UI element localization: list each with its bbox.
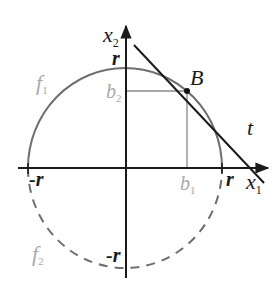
tick-label-r-bottom: -r xyxy=(106,244,121,266)
point-label-b: B xyxy=(190,65,203,90)
circle-tangent-diagram: x2 x1 r r -r -r b2 b1 f1 f2 B t xyxy=(0,0,276,286)
tick-label-b1: b1 xyxy=(180,172,196,196)
tangent-label-t: t xyxy=(247,115,254,140)
curve-label-f2: f2 xyxy=(32,241,44,267)
tick-label-r-left: -r xyxy=(29,168,44,190)
x1-axis-label: x1 xyxy=(245,169,262,197)
tick-label-b2: b2 xyxy=(106,80,122,104)
x2-axis-label: x2 xyxy=(102,22,119,50)
tick-label-r-top: r xyxy=(112,47,120,69)
tick-label-r-right: r xyxy=(226,168,234,190)
curve-label-f1: f1 xyxy=(36,70,48,96)
